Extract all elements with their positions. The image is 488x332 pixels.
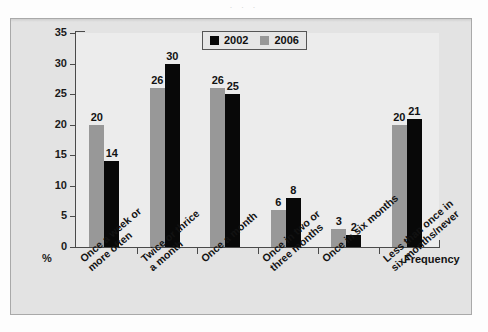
x-axis-tick	[318, 248, 319, 254]
bar-value-label: 8	[282, 184, 305, 196]
y-axis-unit-label: %	[42, 252, 52, 264]
x-axis-tick	[379, 248, 380, 254]
bar-value-label: 25	[221, 80, 244, 92]
y-axis-tick-label: 5	[37, 209, 67, 221]
page-bleed-text: · · ·	[0, 0, 488, 14]
bar-value-label: 14	[100, 147, 123, 159]
y-axis-tick	[70, 247, 76, 248]
x-axis-title: Frequency	[404, 253, 460, 265]
bar-value-label: 6	[267, 196, 290, 208]
y-axis-tick-label: 0	[37, 240, 67, 252]
y-axis-tick-label: 25	[37, 87, 67, 99]
legend-entry-2002: 2002	[210, 34, 248, 46]
figure-frame: 05101520253035 % 2014Once a week ormore …	[10, 18, 472, 315]
bar-2006-0	[89, 125, 104, 247]
x-axis-tick	[258, 248, 259, 254]
legend-label-2002: 2002	[224, 34, 248, 46]
y-axis-tick-label: 10	[37, 179, 67, 191]
x-axis-tick	[197, 248, 198, 254]
legend-entry-2006: 2006	[260, 34, 298, 46]
plot-top-rule	[75, 31, 85, 32]
x-axis-end-cap	[439, 240, 440, 248]
y-axis-tick-label: 35	[37, 26, 67, 38]
figure-page: · · · 05101520253035 % 2014Once a week o…	[0, 0, 488, 332]
legend-swatch-black-icon	[210, 36, 219, 45]
legend-label-2006: 2006	[274, 34, 298, 46]
bar-2006-2	[210, 88, 225, 247]
bar-value-label: 21	[403, 105, 426, 117]
bar-value-label: 30	[161, 50, 184, 62]
x-axis-tick	[137, 248, 138, 254]
chart-legend: 2002 2006	[202, 31, 307, 50]
bar-value-label: 26	[146, 74, 169, 86]
bar-2006-1	[150, 88, 165, 247]
y-axis-tick-label: 20	[37, 118, 67, 130]
y-axis-tick-label: 30	[37, 57, 67, 69]
bar-value-label: 20	[85, 111, 108, 123]
legend-swatch-gray-icon	[260, 36, 269, 45]
bar-2006-5	[392, 125, 407, 247]
y-axis-tick-label: 15	[37, 148, 67, 160]
